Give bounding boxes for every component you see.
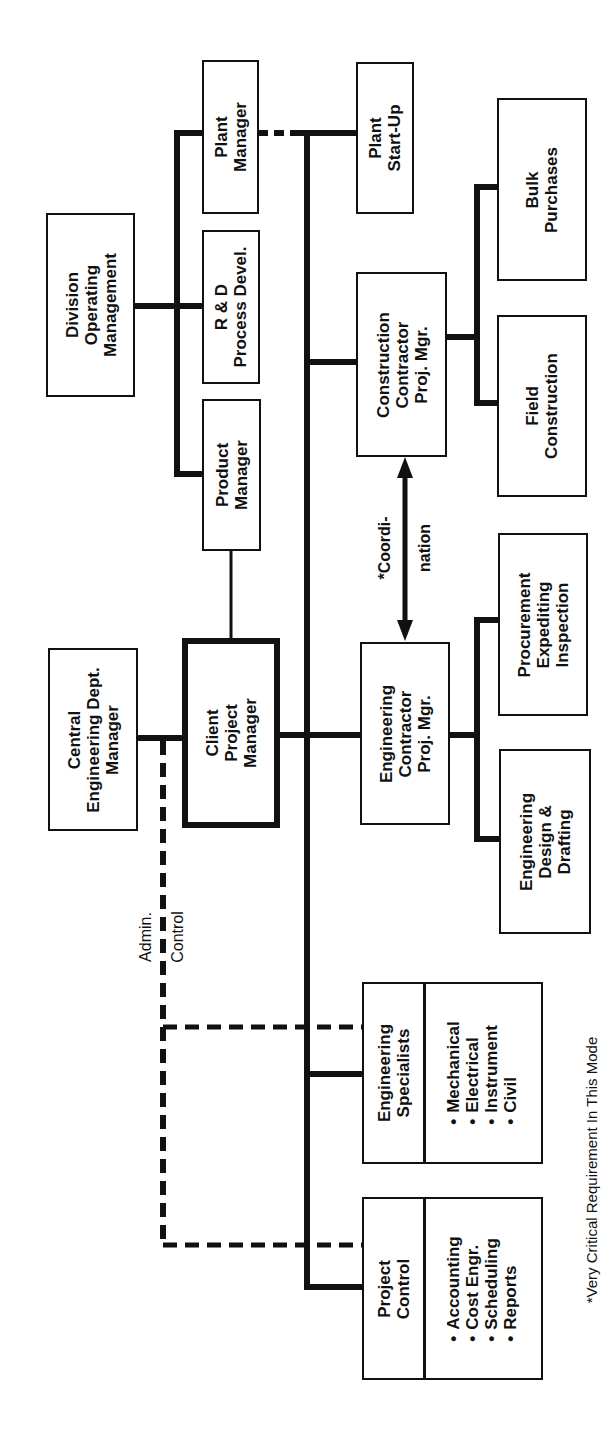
label-line: Management (100, 253, 119, 357)
list-item: Mechanical (444, 1021, 463, 1125)
label-line: Operating (81, 253, 100, 357)
box-procurement-expediting-inspection: Procurement Expediting Inspection (498, 533, 588, 716)
box-project-control: Project Control Accounting Cost Engr. Sc… (362, 1197, 543, 1380)
label-line: Central (65, 667, 84, 812)
plant-start-up-label: Plant Start-Up (366, 104, 404, 171)
label-line: *Coordi- (376, 516, 394, 579)
engineering-specialists-list: Mechanical Electrical Instrument Civil (444, 1021, 520, 1125)
box-plant-start-up: Plant Start-Up (356, 62, 414, 214)
engineering-specialists-title: Engineering Specialists (375, 1024, 413, 1122)
box-division-operating-management: Division Operating Management (46, 213, 135, 397)
box-bulk-purchases: Bulk Purchases (497, 98, 587, 281)
label-line: Purchases (542, 147, 561, 233)
label-line: Field (523, 353, 542, 459)
box-plant-manager: Plant Manager (202, 60, 259, 214)
rd-process-devel-label: R & D Process Devel. (212, 247, 250, 368)
label-line: Specialists (394, 1024, 413, 1122)
label-line: Construction (542, 353, 561, 459)
label-line: Proj. Mgr. (411, 312, 430, 418)
plant-manager-label: Plant Manager (212, 102, 250, 172)
admin-control-label: Admin. Control (137, 911, 187, 963)
list-item: Cost Engr. (463, 1236, 482, 1341)
label-line: Project (375, 1258, 394, 1318)
label-line: Drafting (555, 792, 574, 890)
label-line: Start-Up (385, 104, 404, 171)
label-line: Construction (373, 312, 392, 418)
engineering-contractor-label: Engineering Contractor Proj. Mgr. (377, 684, 434, 782)
label-line: nation (416, 516, 434, 579)
division-operating-management-label: Division Operating Management (62, 253, 119, 357)
arrow-up-icon (397, 457, 413, 478)
label-line: Manager (232, 440, 251, 510)
list-item: Civil (501, 1021, 520, 1125)
box-client-project-manager: Client Project Manager (182, 638, 280, 828)
list-item: Reports (501, 1236, 520, 1341)
coordination-label: *Coordi- nation (376, 516, 434, 579)
label-line: Plant (366, 104, 385, 171)
client-project-manager-label: Client Project Manager (203, 698, 260, 768)
list-item: Accounting (444, 1236, 463, 1341)
label-line: Manager (103, 667, 122, 812)
label-line: Product (213, 440, 232, 510)
box-engineering-specialists: Engineering Specialists Mechanical Elect… (362, 982, 543, 1164)
project-control-list: Accounting Cost Engr. Scheduling Reports (444, 1236, 520, 1341)
label-line: R & D (212, 247, 231, 368)
engineering-design-drafting-label: Engineering Design & Drafting (517, 792, 574, 890)
list-item: Scheduling (482, 1236, 501, 1341)
list-item: Instrument (482, 1021, 501, 1125)
label-line: Engineering (375, 1024, 394, 1122)
footnote: *Very Critical Requirement In This Mode (583, 1037, 601, 1304)
label-line: Client (203, 698, 222, 768)
label-line: Plant (212, 102, 231, 172)
org-chart-diagram: Division Operating Management Plant Mana… (0, 0, 603, 1451)
box-construction-contractor-proj-mgr: Construction Contractor Proj. Mgr. (356, 272, 447, 457)
label-line: Process Devel. (231, 247, 250, 368)
field-construction-label: Field Construction (523, 353, 561, 459)
label-line: Proj. Mgr. (415, 684, 434, 782)
label-line: Design & (536, 792, 555, 890)
label-line: Contractor (392, 312, 411, 418)
label-line: Division (62, 253, 81, 357)
label-line: Inspection (553, 572, 572, 677)
label-line: Manager (231, 102, 250, 172)
box-field-construction: Field Construction (497, 315, 587, 497)
label-line: Bulk (523, 147, 542, 233)
label-line: Admin. (137, 911, 155, 963)
label-line: Engineering (377, 684, 396, 782)
label-line: Manager (241, 698, 260, 768)
engineering-specialists-list-cell: Mechanical Electrical Instrument Civil (423, 984, 541, 1162)
label-line: Expediting (534, 572, 553, 677)
bulk-purchases-label: Bulk Purchases (523, 147, 561, 233)
project-control-title-cell: Project Control (364, 1199, 426, 1378)
label-line: Engineering (517, 792, 536, 890)
label-line: Procurement (515, 572, 534, 677)
project-control-title: Project Control (375, 1258, 413, 1318)
central-engineering-dept-manager-label: Central Engineering Dept. Manager (65, 667, 122, 812)
list-item: Electrical (463, 1021, 482, 1125)
product-manager-label: Product Manager (213, 440, 251, 510)
box-central-engineering-dept-manager: Central Engineering Dept. Manager (48, 648, 138, 831)
project-control-list-cell: Accounting Cost Engr. Scheduling Reports (423, 1199, 541, 1378)
label-line: Engineering Dept. (84, 667, 103, 812)
arrow-down-icon (397, 620, 413, 641)
label-line: Control (169, 911, 187, 963)
box-engineering-design-drafting: Engineering Design & Drafting (499, 749, 591, 934)
construction-contractor-label: Construction Contractor Proj. Mgr. (373, 312, 430, 418)
box-engineering-contractor-proj-mgr: Engineering Contractor Proj. Mgr. (360, 642, 450, 825)
procurement-label: Procurement Expediting Inspection (515, 572, 572, 677)
engineering-specialists-title-cell: Engineering Specialists (364, 984, 426, 1162)
label-line: Contractor (396, 684, 415, 782)
box-rd-process-devel: R & D Process Devel. (202, 230, 260, 384)
label-line: Project (222, 698, 241, 768)
box-product-manager: Product Manager (202, 399, 261, 551)
label-line: Control (394, 1258, 413, 1318)
